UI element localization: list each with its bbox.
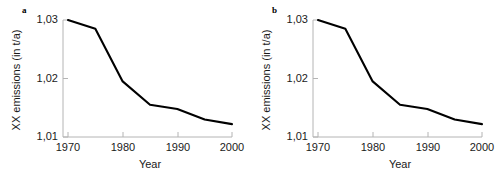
x-tick-label-1980: 1980 (100, 142, 146, 153)
panel-a: a XX emissions (in t/a) 1,03 1,02 1,01 (0, 0, 249, 178)
y-tick-label-102: 1,02 (268, 73, 308, 84)
x-tick-label-1970: 1970 (295, 142, 341, 153)
x-tick-label-2000: 2000 (459, 142, 499, 153)
y-tick-label-wrap-102: 1,02 (18, 73, 58, 85)
y-tick-label-101: 1,01 (18, 131, 58, 142)
x-tick-label-1990: 1990 (155, 142, 201, 153)
x-axis-title: Year (310, 158, 490, 170)
panel-b: b XX emissions (in t/a) 1,03 1,02 1,01 1… (250, 0, 499, 178)
data-line-xx-emissions (68, 20, 232, 124)
x-axis-title: Year (60, 158, 240, 170)
y-tick-label-101: 1,01 (268, 131, 308, 142)
x-tick-label-1990: 1990 (405, 142, 451, 153)
y-tick-label-wrap-102: 1,02 (268, 73, 308, 85)
x-tick-label-1980: 1980 (350, 142, 396, 153)
x-tick-label-2000: 2000 (209, 142, 255, 153)
y-tick-label-wrap-103: 1,03 (18, 14, 58, 26)
data-line-xx-emissions (318, 20, 482, 124)
y-tick-label-103: 1,03 (18, 14, 58, 25)
figure-two-panel-line-charts: a XX emissions (in t/a) 1,03 1,02 1,01 (0, 0, 499, 178)
y-tick-label-102: 1,02 (18, 73, 58, 84)
x-tick-label-1970: 1970 (45, 142, 91, 153)
y-tick-label-103: 1,03 (268, 14, 308, 25)
y-tick-label-wrap-103: 1,03 (268, 14, 308, 26)
